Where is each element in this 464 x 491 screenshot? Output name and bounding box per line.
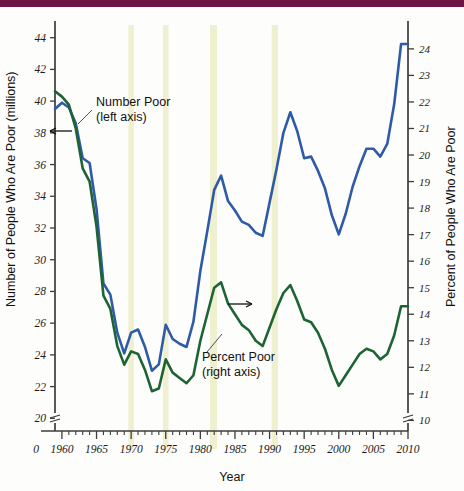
y-tick-label-left: 24 bbox=[35, 349, 47, 361]
y-tick-label-right: 12 bbox=[419, 361, 431, 373]
y-tick-label-right: 21 bbox=[419, 122, 430, 134]
y-tick-label-left: 32 bbox=[34, 222, 47, 234]
right-axis-arrow-icon bbox=[228, 301, 252, 307]
recession-band bbox=[163, 25, 169, 449]
recession-band bbox=[272, 25, 278, 449]
x-tick-label: 1990 bbox=[258, 443, 281, 455]
poverty-chart: 20222426283032343638404244 1011121314151… bbox=[0, 7, 464, 491]
annotation-number-poor-line1: Number Poor bbox=[96, 95, 170, 109]
y-tick-label-right: 24 bbox=[419, 43, 431, 55]
x-tick-label: 1960 bbox=[50, 443, 73, 455]
series-line-number-poor bbox=[55, 44, 408, 371]
y-tick-label-right: 22 bbox=[419, 96, 431, 108]
series-line-percent-poor bbox=[55, 91, 408, 391]
y-tick-label-left: 22 bbox=[35, 381, 47, 393]
left-axis-arrow-icon bbox=[50, 128, 72, 134]
y-tick-label-right: 10 bbox=[419, 414, 431, 426]
y-tick-label-left: 44 bbox=[35, 32, 47, 44]
y-tick-label-left: 30 bbox=[34, 254, 47, 266]
y-tick-label-right: 16 bbox=[419, 255, 431, 267]
y-tick-label-left: 26 bbox=[35, 317, 47, 329]
y-tick-label-right: 13 bbox=[419, 335, 431, 347]
y-tick-label-right: 15 bbox=[419, 282, 431, 294]
x-tick-label: 2005 bbox=[362, 443, 385, 455]
x-axis: 1960196519701975198019851990199520002005… bbox=[33, 431, 420, 455]
x-tick-label: 1970 bbox=[120, 443, 143, 455]
y-tick-label-left: 34 bbox=[34, 190, 47, 202]
annotation-percent-poor-line2: (right axis) bbox=[202, 365, 260, 379]
y-tick-label-right: 11 bbox=[419, 388, 429, 400]
y-tick-label-right: 19 bbox=[419, 176, 431, 188]
y-axis-left-title: Number of People Who Are Poor (millions) bbox=[4, 71, 18, 307]
y-tick-label-left: 42 bbox=[35, 63, 47, 75]
y-tick-label-left: 36 bbox=[34, 159, 47, 171]
x-tick-label: 1995 bbox=[293, 443, 316, 455]
y-tick-label-right: 17 bbox=[419, 229, 431, 241]
left-axis: 20222426283032343638404244 bbox=[34, 21, 61, 431]
annotation-number-poor: Number Poor (left axis) bbox=[78, 95, 170, 124]
chart-canvas: 20222426283032343638404244 1011121314151… bbox=[0, 7, 464, 491]
recession-band bbox=[128, 25, 134, 449]
x-axis-title: Year bbox=[219, 470, 244, 484]
y-tick-label-right: 14 bbox=[419, 308, 431, 320]
y-tick-label-left: 28 bbox=[35, 285, 47, 297]
x-tick-label: 1980 bbox=[189, 443, 212, 455]
page-top-bar bbox=[0, 0, 464, 7]
y-tick-label-right: 20 bbox=[419, 149, 431, 161]
x-tick-label: 1965 bbox=[85, 443, 108, 455]
x-tick-label: 2010 bbox=[397, 443, 420, 455]
x-axis-origin-label: 0 bbox=[33, 443, 39, 455]
y-tick-label-left: 40 bbox=[35, 95, 47, 107]
y-tick-label-right: 18 bbox=[419, 202, 431, 214]
y-tick-label-right: 23 bbox=[419, 69, 431, 81]
x-tick-label: 1975 bbox=[154, 443, 177, 455]
y-axis-right-title: Percent of People Who Are Poor bbox=[444, 126, 458, 307]
y-tick-label-left: 20 bbox=[35, 412, 47, 424]
right-axis: 101112131415161718192021222324 bbox=[403, 21, 431, 431]
x-tick-label: 2000 bbox=[327, 443, 350, 455]
annotation-number-poor-leader bbox=[78, 110, 92, 124]
annotation-percent-poor-line1: Percent Poor bbox=[202, 350, 275, 364]
recession-band bbox=[210, 25, 217, 449]
annotation-number-poor-line2: (left axis) bbox=[96, 110, 147, 124]
y-tick-label-left: 38 bbox=[34, 127, 47, 139]
x-tick-label: 1985 bbox=[223, 443, 246, 455]
